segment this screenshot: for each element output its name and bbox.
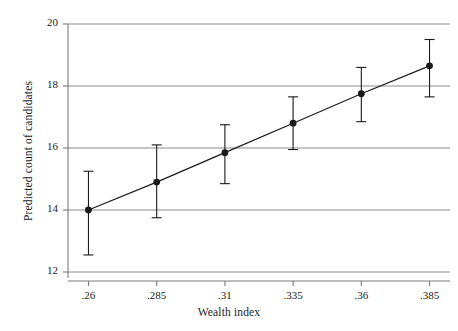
- data-point-marker-2: [221, 149, 228, 156]
- data-point-marker-4: [358, 90, 365, 97]
- x-tick-label-.335: .335: [270, 289, 316, 301]
- chart-plot-area: [0, 0, 458, 331]
- prediction-line: [88, 66, 429, 210]
- x-tick-label-.385: .385: [407, 289, 453, 301]
- data-point-marker-1: [153, 179, 160, 186]
- x-axis-title: Wealth index: [0, 306, 458, 318]
- x-tick-label-.31: .31: [202, 289, 248, 301]
- y-tick-label-16: 16: [32, 140, 58, 152]
- x-tick-label-.26: .26: [65, 289, 111, 301]
- y-tick-label-12: 12: [32, 264, 58, 276]
- y-tick-label-18: 18: [32, 78, 58, 90]
- x-tick-label-.285: .285: [134, 289, 180, 301]
- x-tick-label-.36: .36: [338, 289, 384, 301]
- y-tick-label-20: 20: [32, 16, 58, 28]
- y-tick-label-14: 14: [32, 202, 58, 214]
- data-point-marker-3: [290, 120, 297, 127]
- data-point-marker-0: [85, 207, 92, 214]
- chart-figure: Wealth index Predicted count of candidat…: [0, 0, 458, 331]
- data-point-marker-5: [426, 62, 433, 69]
